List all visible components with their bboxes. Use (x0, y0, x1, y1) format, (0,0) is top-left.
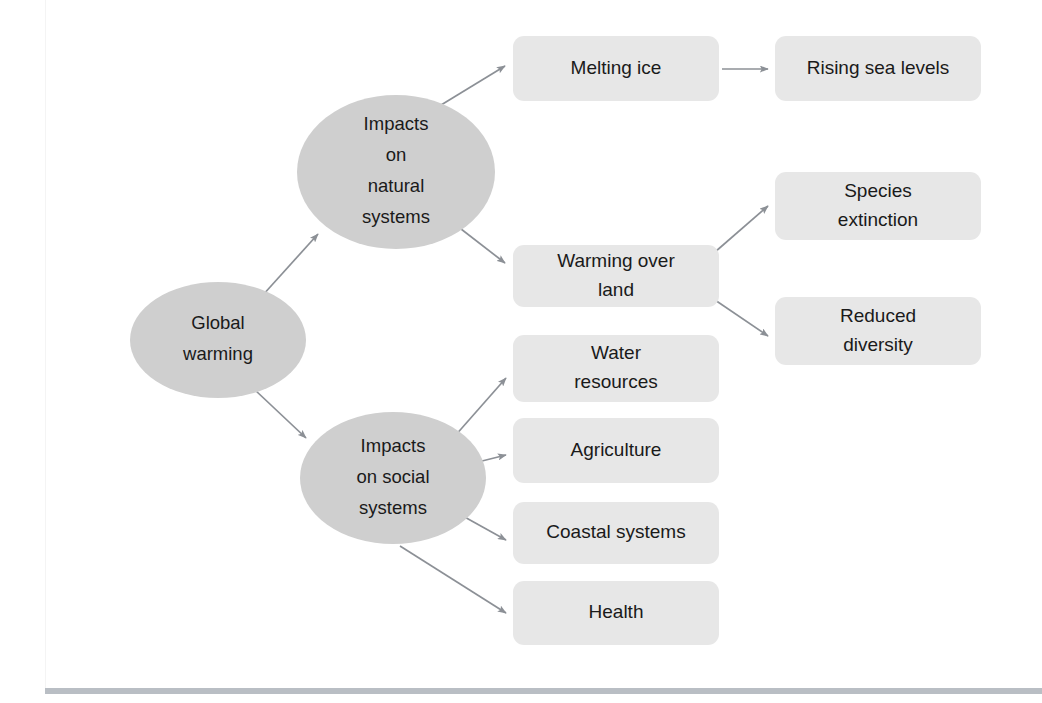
node-species-extinction[interactable]: Speciesextinction (775, 172, 981, 240)
node-label-reduced-diversity: diversity (843, 334, 913, 355)
node-label-impacts-social-systems: on social (356, 466, 429, 487)
edge-social-to-water-resources (454, 378, 506, 437)
node-label-species-extinction: Species (844, 180, 912, 201)
node-label-impacts-natural-systems: Impacts (364, 113, 429, 134)
node-label-impacts-natural-systems: natural (368, 175, 425, 196)
node-label-impacts-social-systems: Impacts (361, 435, 426, 456)
page-bottom-rule (45, 688, 1042, 694)
node-label-water-resources: Water (591, 342, 642, 363)
edge-global-to-natural (262, 234, 318, 296)
node-health[interactable]: Health (513, 581, 719, 645)
edge-warming-over-land-to-species-extinction (715, 206, 768, 252)
node-label-impacts-natural-systems: systems (362, 206, 430, 227)
node-label-warming-over-land: Warming over (557, 250, 675, 271)
node-label-reduced-diversity: Reduced (840, 305, 916, 326)
node-label-agriculture: Agriculture (571, 439, 662, 460)
concept-map-svg: GlobalwarmingImpactsonnaturalsystemsImpa… (0, 0, 1042, 703)
node-water-resources[interactable]: Waterresources (513, 335, 719, 402)
node-global-warming[interactable]: Globalwarming (130, 282, 306, 398)
node-label-melting-ice: Melting ice (571, 57, 662, 78)
node-label-water-resources: resources (574, 371, 657, 392)
node-label-health: Health (589, 601, 644, 622)
node-label-global-warming: warming (182, 343, 253, 364)
node-label-species-extinction: extinction (838, 209, 918, 230)
node-melting-ice[interactable]: Melting ice (513, 36, 719, 101)
node-coastal-systems[interactable]: Coastal systems (513, 502, 719, 564)
diagram-canvas: GlobalwarmingImpactsonnaturalsystemsImpa… (0, 0, 1042, 703)
node-label-impacts-social-systems: systems (359, 497, 427, 518)
edge-warming-over-land-to-reduced-diversity (715, 300, 768, 336)
node-label-impacts-natural-systems: on (386, 144, 407, 165)
node-label-global-warming: Global (191, 312, 244, 333)
edge-social-to-health (400, 546, 506, 613)
node-label-rising-sea-levels: Rising sea levels (807, 57, 950, 78)
node-label-coastal-systems: Coastal systems (546, 521, 685, 542)
node-agriculture[interactable]: Agriculture (513, 418, 719, 483)
node-impacts-social-systems[interactable]: Impactson socialsystems (300, 412, 486, 544)
node-layer: GlobalwarmingImpactsonnaturalsystemsImpa… (130, 36, 981, 645)
edge-global-to-social (255, 390, 306, 438)
node-shape-global-warming (130, 282, 306, 398)
node-reduced-diversity[interactable]: Reduceddiversity (775, 297, 981, 365)
node-rising-sea-levels[interactable]: Rising sea levels (775, 36, 981, 101)
node-warming-over-land[interactable]: Warming overland (513, 245, 719, 307)
node-label-warming-over-land: land (598, 279, 634, 300)
node-impacts-natural-systems[interactable]: Impactsonnaturalsystems (297, 95, 495, 249)
